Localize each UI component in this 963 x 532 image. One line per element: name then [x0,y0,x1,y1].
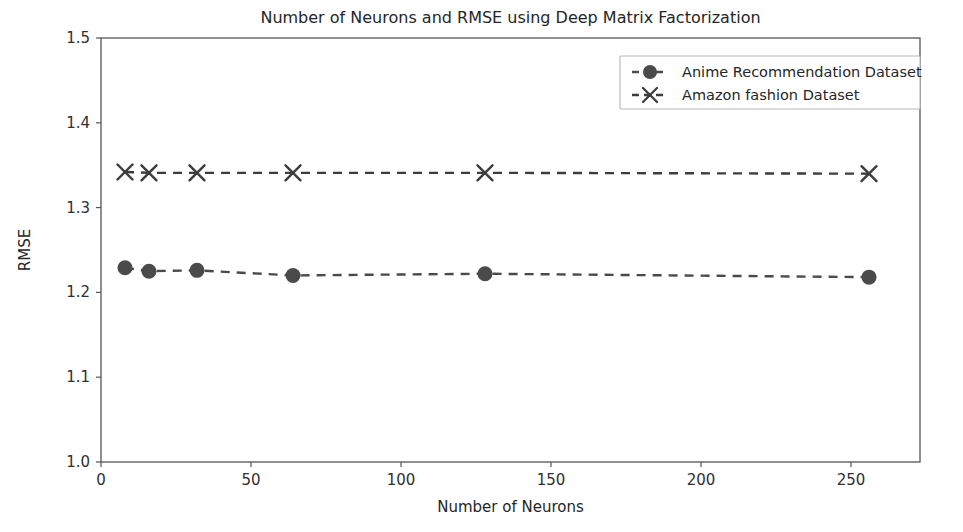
data-series [118,260,877,284]
y-axis-title: RMSE [16,229,34,271]
x-tick-label: 0 [96,471,106,489]
data-point-marker [118,260,133,275]
series-layer [118,164,877,284]
figure-canvas: Number of Neurons and RMSE using Deep Ma… [0,0,963,532]
x-tick-label: 200 [687,471,716,489]
y-axis-ticks: 1.01.11.21.31.41.5 [66,29,101,471]
data-point-marker [478,266,493,281]
data-point-marker [190,263,205,278]
y-tick-label: 1.4 [66,114,90,132]
y-tick-label: 1.1 [66,368,90,386]
legend-marker-circle-icon [643,65,657,79]
chart-plot: Number of Neurons and RMSE using Deep Ma… [0,0,963,532]
x-axis-title: Number of Neurons [437,498,584,516]
legend-label: Amazon fashion Dataset [682,87,860,103]
x-tick-label: 50 [241,471,260,489]
y-tick-label: 1.0 [66,453,90,471]
chart-title: Number of Neurons and RMSE using Deep Ma… [260,8,760,27]
y-tick-label: 1.2 [66,283,90,301]
data-series [118,164,877,181]
x-tick-label: 100 [387,471,416,489]
x-axis-ticks: 050100150200250 [96,462,865,489]
y-tick-label: 1.3 [66,199,90,217]
x-tick-label: 250 [837,471,866,489]
series-line [125,268,869,277]
legend-label: Anime Recommendation Dataset [682,64,922,80]
y-tick-label: 1.5 [66,29,90,47]
data-point-marker [286,268,301,283]
series-line [125,172,869,174]
x-tick-label: 150 [537,471,566,489]
data-point-marker [862,270,877,285]
data-point-marker [142,264,157,279]
chart-legend: Anime Recommendation DatasetAmazon fashi… [620,56,922,109]
